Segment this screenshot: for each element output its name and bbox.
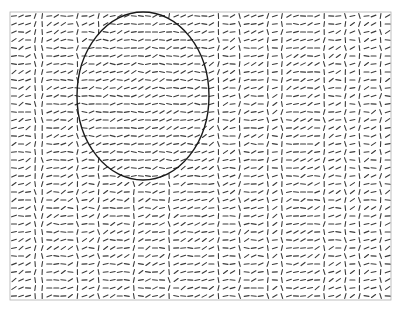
line-texture-stimulus	[0, 0, 403, 312]
